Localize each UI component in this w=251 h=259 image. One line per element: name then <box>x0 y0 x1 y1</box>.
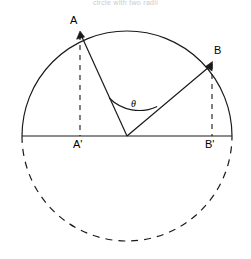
arrowhead-a <box>77 31 85 39</box>
label-angle-theta: θ <box>131 99 136 109</box>
label-point-a: A <box>70 15 77 26</box>
radius-to-b <box>127 67 209 136</box>
upper-semicircle-solid <box>22 31 232 136</box>
diagram-canvas <box>0 0 251 259</box>
label-foot-a-prime: A' <box>73 139 82 150</box>
label-point-b: B <box>214 45 221 56</box>
lower-semicircle-dashed <box>22 136 232 241</box>
circle-angle-diagram: circle with two radii A B A' B' θ <box>0 0 251 259</box>
label-foot-b-prime: B' <box>205 139 214 150</box>
radius-to-a <box>82 36 128 136</box>
